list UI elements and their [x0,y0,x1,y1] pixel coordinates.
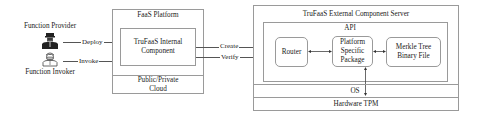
person-with-cap-icon [41,33,59,49]
invoke-edge-label: Invoke [78,57,99,65]
os-label: OS [345,87,365,96]
trufaas-internal-component-box: TruFaaS Internal Component [120,28,196,66]
deploy-edge-label: Deploy [81,38,104,46]
platform-package-line1: Platform [340,38,365,47]
verify-edge-label: Verify [220,53,240,61]
function-provider-label: Function Provider [4,22,96,31]
platform-specific-package-box: Platform Specific Package [332,36,373,67]
merkle-tree-binary-file-box: Merkle Tree Binary File [386,37,441,67]
internal-component-line2: Component [141,47,175,56]
platform-merkle-bidirectional-arrow-icon [373,49,386,54]
api-title: API [330,24,370,33]
public-private-cloud-label: Public/Private Cloud [112,76,204,94]
merkle-line1: Merkle Tree [396,43,431,52]
platform-package-line2: Specific [341,47,365,56]
person-with-mask-icon [42,51,58,66]
cloud-line1: Public/Private [138,76,179,85]
router-platform-bidirectional-arrow-icon [308,49,332,54]
server-title: TruFaaS External Component Server [253,10,459,19]
hardware-divider [253,97,459,98]
merkle-line2: Binary File [397,52,430,61]
faas-platform-title: FaaS Platform [112,11,204,20]
router-box: Router [275,37,308,67]
create-edge-label: Create [219,42,239,50]
router-label: Router [282,48,302,57]
platform-package-line3: Package [341,56,365,65]
hardware-tpm-label: Hardware TPM [253,100,459,109]
internal-component-line1: TruFaaS Internal [134,38,183,47]
cloud-line2: Cloud [149,85,167,94]
os-divider [253,84,459,85]
function-invoker-label: Function Invoker [4,68,96,77]
